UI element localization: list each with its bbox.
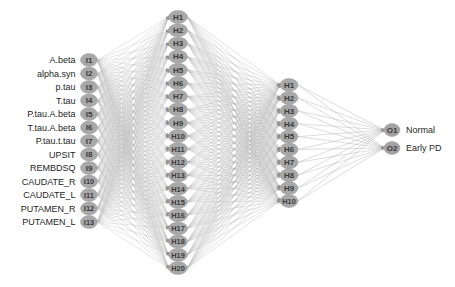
output-class-label-O1: Normal xyxy=(406,125,435,135)
edge xyxy=(298,148,384,201)
edge-group-input-to-hidden1 xyxy=(98,17,169,268)
edge xyxy=(188,17,281,85)
edge xyxy=(298,130,384,201)
node-label: H7 xyxy=(173,92,184,101)
input-feature-label-I11: CAUDATE_L xyxy=(23,190,75,200)
node-label: H13 xyxy=(171,171,185,180)
node-label: H9 xyxy=(284,184,295,193)
input-feature-label-I9: REMBDSQ xyxy=(30,163,76,173)
edge xyxy=(298,148,384,149)
node-label: H4 xyxy=(284,120,295,129)
input-feature-label-I6: T.tau.A.beta xyxy=(27,123,75,133)
edge xyxy=(298,148,384,188)
edge xyxy=(298,148,384,162)
output-class-label-O2: Early PD xyxy=(406,143,442,153)
node-label: O1 xyxy=(387,126,398,135)
node-label: H17 xyxy=(171,224,185,233)
neural-network-diagram: A.betaalpha.synp.tauT.tauP.tau.A.betaT.t… xyxy=(0,0,455,287)
node-label: H20 xyxy=(171,264,185,273)
node-label: H3 xyxy=(173,39,184,48)
node-label: H6 xyxy=(173,79,184,88)
node-label: H5 xyxy=(173,66,184,75)
edge xyxy=(188,162,281,268)
node-label: H8 xyxy=(173,105,184,114)
input-layer-nodes: I1I2I3I4I5I6I7I8I9I10I11I12I13 xyxy=(81,54,98,229)
node-label: H12 xyxy=(171,158,185,167)
network-svg: A.betaalpha.synp.tauT.tauP.tau.A.betaT.t… xyxy=(0,0,455,287)
edge xyxy=(298,148,384,175)
node-label: H2 xyxy=(284,94,295,103)
input-feature-label-I13: PUTAMEN_L xyxy=(22,217,75,227)
node-label: H8 xyxy=(284,171,295,180)
node-label: H10 xyxy=(282,197,296,206)
node-label: H7 xyxy=(284,158,295,167)
node-label: I4 xyxy=(86,96,93,105)
node-label: I7 xyxy=(86,137,93,146)
node-label: H11 xyxy=(171,145,184,154)
node-label: H4 xyxy=(173,52,184,61)
node-label: H6 xyxy=(284,145,295,154)
node-label: H1 xyxy=(284,81,295,90)
node-label: I8 xyxy=(86,150,93,159)
node-label: I1 xyxy=(86,56,93,65)
input-feature-label-I10: CAUDATE_R xyxy=(22,177,76,187)
input-feature-label-I3: p.tau xyxy=(55,82,75,92)
output-class-labels: NormalEarly PD xyxy=(406,125,442,153)
node-label: H3 xyxy=(284,107,295,116)
hidden2-layer-nodes: H1H2H3H4H5H6H7H8H9H10 xyxy=(280,79,298,208)
node-label: H15 xyxy=(171,198,185,207)
node-label: I10 xyxy=(84,177,94,186)
node-label: I5 xyxy=(86,110,93,119)
node-label: H18 xyxy=(171,237,185,246)
edge xyxy=(188,70,281,85)
node-label: I6 xyxy=(86,123,93,132)
edge-group-hidden2-to-output xyxy=(298,85,384,201)
output-layer-nodes: O1O2 xyxy=(384,124,400,155)
input-feature-label-I2: alpha.syn xyxy=(37,69,76,79)
node-label: H14 xyxy=(171,185,185,194)
node-label: H9 xyxy=(173,119,184,128)
node-label: H10 xyxy=(171,132,185,141)
input-feature-label-I8: UPSIT xyxy=(49,150,76,160)
input-feature-label-I5: P.tau.A.beta xyxy=(27,109,75,119)
node-label: H19 xyxy=(171,251,185,260)
node-label: H5 xyxy=(284,132,295,141)
node-label: I9 xyxy=(86,164,93,173)
node-label: I2 xyxy=(86,69,93,78)
hidden1-layer-nodes: H1H2H3H4H5H6H7H8H9H10H11H12H13H14H15H16H… xyxy=(169,11,188,275)
input-feature-labels: A.betaalpha.synp.tauT.tauP.tau.A.betaT.t… xyxy=(21,55,76,227)
node-label: I13 xyxy=(84,218,94,227)
node-label: H1 xyxy=(173,13,184,22)
node-label: H2 xyxy=(173,26,184,35)
input-feature-label-I7: P.tau.t.tau xyxy=(36,136,76,146)
node-label: O2 xyxy=(387,144,398,153)
edge-group-hidden1-to-hidden2 xyxy=(188,17,281,268)
node-label: I12 xyxy=(84,204,94,213)
node-label: H16 xyxy=(171,211,185,220)
input-feature-label-I12: PUTAMEN_R xyxy=(21,204,76,214)
input-feature-label-I1: A.beta xyxy=(49,55,75,65)
edge xyxy=(188,43,281,85)
edge xyxy=(298,130,384,188)
input-feature-label-I4: T.tau xyxy=(56,96,76,106)
node-label: I3 xyxy=(86,83,93,92)
node-label: I11 xyxy=(84,191,94,200)
edge xyxy=(298,130,384,175)
